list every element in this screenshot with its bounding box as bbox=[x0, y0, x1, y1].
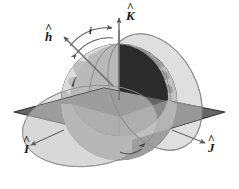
inclination-angle-text: i bbox=[89, 25, 92, 36]
i-hat-caret: ^ bbox=[23, 134, 30, 146]
k-hat-label: ^ K bbox=[126, 9, 135, 22]
figure-canvas bbox=[0, 0, 239, 189]
inclination-angle-label: i bbox=[89, 26, 92, 36]
j-hat-label: ^ J bbox=[208, 141, 215, 154]
j-hat-caret: ^ bbox=[208, 133, 215, 145]
h-hat-caret: ^ bbox=[45, 22, 52, 34]
orbital-inclination-figure: ^ K ^ h i ^ I ^ J bbox=[0, 0, 239, 189]
i-hat-label: ^ I bbox=[24, 142, 29, 155]
h-hat-label: ^ h bbox=[45, 30, 52, 43]
k-hat-caret: ^ bbox=[127, 1, 134, 13]
